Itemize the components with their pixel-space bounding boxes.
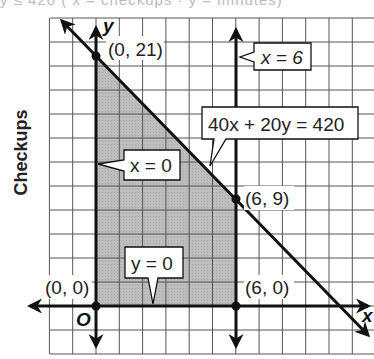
chart-plot: (0, 21) (6, 9) (0, 0) (6, 0) O y x x = 6… [0,0,374,359]
line-constraint [62,21,96,56]
callout-y-0-text: y = 0 [131,253,173,274]
label-point-6-9: (6, 9) [245,188,289,209]
vertex-0-0 [92,302,101,311]
vertex-6-0 [232,302,241,311]
y-axis-label: y [102,15,115,36]
origin-label: O [76,309,91,330]
label-point-0-21: (0, 21) [108,39,163,60]
callout-x-6-text: x = 6 [260,47,303,68]
vertex-0-21 [92,52,101,61]
label-point-6-0: (6, 0) [245,277,289,298]
label-point-0-0: (0, 0) [45,277,89,298]
callout-x-0-text: x = 0 [130,155,172,176]
callout-constraint-text: 40x + 20y = 420 [208,114,344,135]
x-axis-label: x [361,305,374,326]
vertex-6-9 [232,195,241,204]
